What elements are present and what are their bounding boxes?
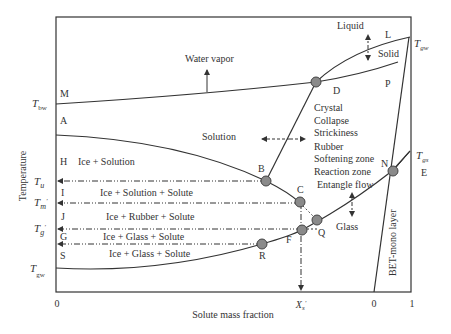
- zone-crystal: Crystal: [314, 102, 343, 113]
- x-tick-1: 1: [410, 298, 415, 309]
- letter-l: L: [385, 29, 391, 40]
- zone-strickiness: Strickiness: [314, 127, 358, 138]
- x-tick-bet-0: 0: [372, 298, 377, 309]
- x-tick-xs: Xs': [295, 299, 307, 312]
- b-d-line: [266, 82, 316, 181]
- boiling-line: [56, 62, 398, 104]
- point-b: [261, 176, 271, 186]
- letter-a: A: [60, 115, 68, 126]
- point-d: [311, 77, 321, 87]
- point-r: [257, 239, 267, 249]
- temp-tgw-bottom: Tgw: [30, 262, 46, 279]
- region-ice-glass-solute-2: Ice + Glass + Solute: [109, 248, 191, 259]
- point-f: [297, 225, 307, 235]
- temp-tbw: Tbw: [32, 97, 48, 112]
- letter-e: E: [421, 167, 427, 178]
- zone-entangle-flow: Entangle flow: [317, 179, 374, 190]
- letter-b: B: [258, 163, 265, 174]
- letter-j: J: [61, 211, 65, 222]
- region-ice-glass-solute-1: Ice + Glass + Solute: [103, 231, 185, 242]
- region-glass: Glass: [336, 221, 358, 232]
- region-bet-mono-layer: BET-mono layer: [387, 209, 398, 276]
- x-axis-label: Solute mass fraction: [192, 309, 274, 320]
- region-ice-solution-solute: Ice + Solution + Solute: [100, 187, 194, 198]
- letter-d: D: [333, 85, 340, 96]
- temp-tg: Tg': [34, 222, 46, 237]
- letter-m: M: [60, 88, 69, 99]
- letter-g: G: [60, 231, 67, 242]
- liquid-solid-boundary: [316, 37, 410, 82]
- zone-collapse: Collapse: [314, 115, 350, 126]
- zone-reaction: Reaction zone: [314, 166, 371, 177]
- region-liquid: Liquid: [337, 20, 364, 31]
- zone-rubber: Rubber: [314, 141, 344, 152]
- state-diagram: Solute mass fraction Temperature 0 0 1 X…: [0, 0, 451, 334]
- letter-r: R: [259, 250, 266, 261]
- x-tick-0: 0: [55, 298, 60, 309]
- point-c: [295, 197, 305, 207]
- letter-n: N: [381, 158, 388, 169]
- point-n: [388, 166, 398, 176]
- letter-s: S: [60, 250, 66, 261]
- letter-f: F: [286, 234, 292, 245]
- letter-h: H: [60, 156, 67, 167]
- temp-tu: Tu: [34, 175, 44, 190]
- y-axis-label: Temperature: [17, 150, 28, 201]
- temp-tm: Tm': [34, 196, 48, 211]
- region-solid: Solid: [378, 48, 399, 59]
- point-q: [312, 215, 322, 225]
- temp-tgs: Tgs: [416, 149, 429, 164]
- letter-c: C: [297, 184, 304, 195]
- letter-q: Q: [318, 227, 326, 238]
- region-ice-solution: Ice + Solution: [78, 156, 135, 167]
- region-ice-rubber-solute: Ice + Rubber + Solute: [106, 211, 195, 222]
- region-solution: Solution: [202, 131, 236, 142]
- letter-i: I: [61, 187, 64, 198]
- letter-p: P: [385, 78, 391, 89]
- temp-tgw-top: Tgw: [414, 37, 429, 52]
- zone-softening: Softening zone: [314, 153, 375, 164]
- region-water-vapor: Water vapor: [185, 53, 235, 64]
